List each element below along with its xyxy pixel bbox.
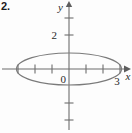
y-tick-label-2: 2 [52, 29, 58, 41]
y-axis-label: y [57, 1, 63, 13]
ellipse-plot: 2 3 0 y x [0, 0, 132, 133]
x-axis-label: x [125, 70, 131, 82]
figure-container: 2. 2 3 0 [0, 0, 132, 133]
x-tick-label-3: 3 [114, 75, 120, 87]
origin-label: 0 [61, 73, 67, 85]
y-axis-arrowhead-icon [66, 1, 72, 7]
